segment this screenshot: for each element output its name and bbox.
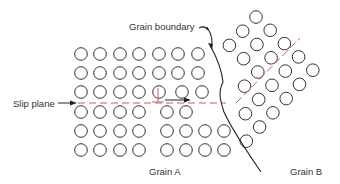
atom [236, 25, 249, 38]
atom [94, 106, 107, 119]
atom [250, 11, 263, 24]
atom [199, 144, 212, 157]
atom [278, 37, 291, 50]
atom [196, 86, 209, 99]
atom [75, 144, 88, 157]
slip-plane-pointer-head [70, 101, 77, 106]
atom [172, 67, 185, 80]
atom [161, 144, 174, 157]
grain-boundary-label: Grain boundary [129, 21, 194, 32]
atom [75, 125, 88, 138]
atom [218, 125, 231, 138]
grain-b-label: Grain B [290, 166, 322, 177]
atom [252, 93, 265, 106]
atom [279, 65, 292, 78]
atom [192, 67, 205, 80]
atom [266, 79, 279, 92]
atom [153, 86, 166, 99]
atom [307, 64, 320, 77]
atom [293, 78, 306, 91]
atom [251, 38, 264, 51]
atom [94, 67, 107, 80]
atom [75, 106, 88, 119]
atom [114, 86, 127, 99]
atom [133, 86, 146, 99]
atom [280, 92, 293, 105]
grain-b-slip-line [236, 38, 300, 103]
atom [223, 39, 236, 52]
atom [264, 24, 277, 37]
atom [114, 48, 127, 61]
atom [75, 86, 88, 99]
atom [114, 106, 127, 119]
motion-arrow-head [184, 98, 191, 103]
atom [192, 48, 205, 61]
atom [94, 48, 107, 61]
atom [218, 144, 231, 157]
atom [240, 135, 253, 148]
grain-a-label: Grain A [149, 166, 181, 177]
atom [292, 51, 305, 64]
atom [161, 125, 174, 138]
atom [114, 125, 127, 138]
atom [133, 106, 146, 119]
slip-plane-label: Slip plane [13, 98, 55, 109]
atom [133, 48, 146, 61]
atom [253, 121, 266, 134]
atom [75, 67, 88, 80]
atom [114, 144, 127, 157]
atom [133, 125, 146, 138]
atom [94, 144, 107, 157]
atom [199, 125, 212, 138]
atom [94, 86, 107, 99]
atom [180, 125, 193, 138]
atom [176, 86, 189, 99]
atom [133, 67, 146, 80]
atom [75, 48, 88, 61]
atom [180, 144, 193, 157]
atom [133, 144, 146, 157]
atom [172, 48, 185, 61]
atom [239, 107, 252, 120]
atom [161, 106, 174, 119]
atom [267, 107, 280, 120]
atom [237, 52, 250, 65]
atom [153, 67, 166, 80]
atom [180, 106, 193, 119]
atom [238, 80, 251, 93]
atom [114, 67, 127, 80]
atom [94, 125, 107, 138]
atom [153, 48, 166, 61]
grain-b-atoms [223, 11, 319, 148]
